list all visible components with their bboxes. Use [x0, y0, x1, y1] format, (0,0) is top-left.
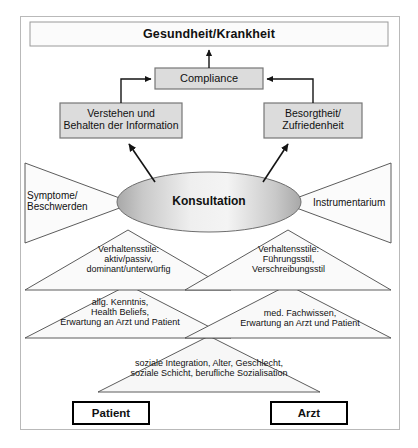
diagram-canvas: Gesundheit/Krankheit Compliance Verstehe…	[0, 0, 418, 448]
arrow-consultation-to-understanding	[129, 144, 155, 182]
arrow-consultation-to-concern	[263, 144, 288, 182]
understanding-box	[60, 103, 182, 138]
triangle-behaviour-right	[185, 230, 391, 290]
outcome-box	[30, 22, 388, 46]
triangle-knowledge-right	[185, 285, 391, 338]
actor-box-patient	[73, 402, 149, 424]
concern-box	[264, 103, 362, 138]
actor-box-arzt	[271, 402, 347, 424]
diagram-graphics	[0, 0, 418, 448]
arrow-concern-to-compliance	[267, 79, 313, 103]
arrow-understanding-to-compliance	[121, 79, 151, 103]
consultation-ellipse	[117, 172, 301, 232]
compliance-box	[155, 68, 263, 89]
triangle-shared-base	[98, 336, 320, 392]
